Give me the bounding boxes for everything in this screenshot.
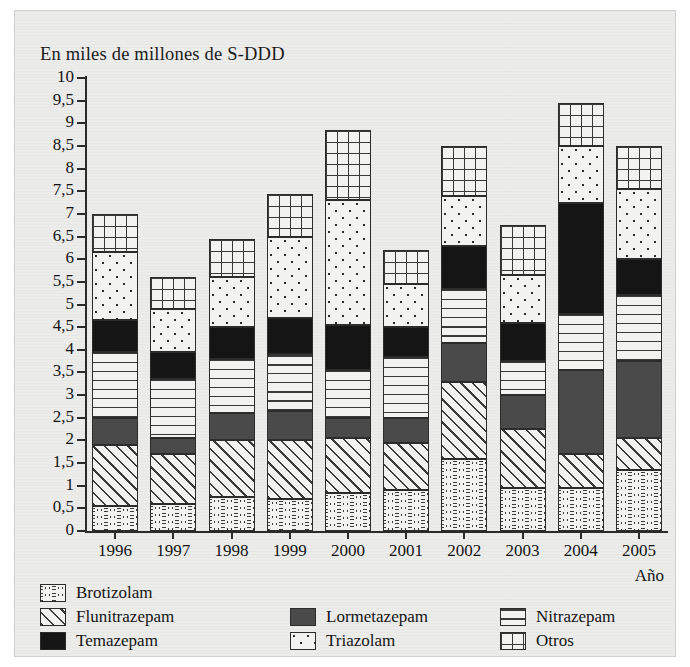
- bar-segment-otros-2001: [383, 250, 429, 284]
- bar-segment-nitrazepam-1998: [209, 359, 255, 413]
- y-axis-tick-label: 4,5: [30, 316, 74, 336]
- x-axis-tick: [289, 531, 291, 539]
- x-axis-label-1997: 1997: [144, 541, 202, 561]
- bar-2002: [441, 146, 487, 531]
- x-axis-tick: [231, 531, 233, 539]
- bar-segment-brotizolam-1996: [92, 506, 138, 531]
- bar-segment-otros-2003: [500, 225, 546, 275]
- plot-area: [86, 78, 668, 531]
- x-axis-tick: [522, 531, 524, 539]
- y-axis-tick-label: 1: [30, 475, 74, 495]
- legend-swatch-brotizolam-icon: [40, 584, 66, 602]
- y-axis-tick-label: 6,5: [30, 226, 74, 246]
- x-axis-label-1998: 1998: [203, 541, 261, 561]
- bar-segment-triazolam-1999: [267, 237, 313, 319]
- bar-segment-lormetazepam-1998: [209, 413, 255, 440]
- legend-label: Brotizolam: [76, 583, 152, 603]
- legend-label: Temazepam: [76, 631, 158, 651]
- bar-segment-lormetazepam-2002: [441, 343, 487, 382]
- bar-2005: [616, 146, 662, 531]
- y-axis-tick-label: 0: [30, 520, 74, 540]
- bar-segment-nitrazepam-2002: [441, 289, 487, 343]
- bar-segment-triazolam-2000: [325, 200, 371, 325]
- bar-segment-temazepam-1997: [150, 352, 196, 379]
- legend-label: Lormetazepam: [326, 607, 428, 627]
- bar-segment-flunitrazepam-1996: [92, 445, 138, 506]
- bar-segment-triazolam-2003: [500, 275, 546, 323]
- bar-segment-temazepam-1999: [267, 318, 313, 354]
- x-axis-tick: [405, 531, 407, 539]
- y-axis-tick-label: 2,5: [30, 407, 74, 427]
- legend-swatch-lormetazepam-icon: [290, 608, 316, 626]
- x-axis-label-2002: 2002: [435, 541, 493, 561]
- bar-segment-nitrazepam-1999: [267, 354, 313, 411]
- bar-segment-flunitrazepam-2005: [616, 438, 662, 470]
- chart-title: En miles de millones de S-DDD: [40, 44, 285, 65]
- x-axis-label-2001: 2001: [377, 541, 435, 561]
- bar-2004: [558, 103, 604, 531]
- bar-1996: [92, 214, 138, 531]
- bar-segment-flunitrazepam-1997: [150, 454, 196, 504]
- bar-segment-flunitrazepam-2003: [500, 429, 546, 488]
- legend-item-lormetazepam: Lormetazepam: [290, 606, 428, 628]
- bar-segment-nitrazepam-2001: [383, 357, 429, 418]
- legend-item-brotizolam: Brotizolam: [40, 582, 152, 604]
- y-axis-tick-label: 5,5: [30, 271, 74, 291]
- bar-segment-temazepam-2003: [500, 323, 546, 362]
- legend-swatch-otros-icon: [500, 632, 526, 650]
- x-axis-tick: [172, 531, 174, 539]
- bar-segment-otros-2002: [441, 146, 487, 196]
- legend-swatch-temazepam-icon: [40, 632, 66, 650]
- bar-segment-brotizolam-2002: [441, 459, 487, 531]
- bar-segment-triazolam-2002: [441, 196, 487, 246]
- legend-item-flunitrazepam: Flunitrazepam: [40, 606, 174, 628]
- y-axis-tick-label: 3,5: [30, 361, 74, 381]
- bar-segment-triazolam-1998: [209, 277, 255, 327]
- bar-segment-otros-1996: [92, 214, 138, 253]
- bar-segment-triazolam-1996: [92, 252, 138, 320]
- bar-segment-otros-1997: [150, 277, 196, 309]
- y-axis-tick-label: 8,5: [30, 135, 74, 155]
- bar-segment-lormetazepam-1997: [150, 438, 196, 454]
- bar-segment-lormetazepam-2005: [616, 361, 662, 438]
- bar-segment-triazolam-2004: [558, 146, 604, 203]
- bar-segment-lormetazepam-2003: [500, 395, 546, 429]
- y-axis-tick-label: 7: [30, 203, 74, 223]
- y-axis-tick-label: 6: [30, 248, 74, 268]
- x-axis-label-2004: 2004: [552, 541, 610, 561]
- bar-2000: [325, 130, 371, 531]
- y-axis-tick-label: 4: [30, 339, 74, 359]
- legend-swatch-nitrazepam-icon: [500, 608, 526, 626]
- bar-segment-lormetazepam-2004: [558, 370, 604, 454]
- legend-item-nitrazepam: Nitrazepam: [500, 606, 615, 628]
- bar-2003: [500, 225, 546, 531]
- y-axis-tick-label: 0,5: [30, 497, 74, 517]
- bar-segment-brotizolam-2005: [616, 470, 662, 531]
- x-axis-label-2003: 2003: [494, 541, 552, 561]
- y-axis-tick-label: 5: [30, 294, 74, 314]
- bar-segment-otros-2005: [616, 146, 662, 189]
- bar-segment-temazepam-2005: [616, 259, 662, 295]
- bar-segment-otros-1998: [209, 239, 255, 278]
- y-axis-tick-label: 10: [30, 67, 74, 87]
- legend-item-triazolam: Triazolam: [290, 630, 395, 652]
- legend-label: Nitrazepam: [536, 607, 615, 627]
- y-axis-tick-label: 3: [30, 384, 74, 404]
- bar-segment-brotizolam-2004: [558, 488, 604, 531]
- bar-segment-temazepam-2002: [441, 246, 487, 289]
- bar-segment-lormetazepam-1999: [267, 411, 313, 440]
- bar-1997: [150, 277, 196, 531]
- y-axis-tick-label: 1,5: [30, 452, 74, 472]
- bar-segment-brotizolam-2000: [325, 493, 371, 532]
- bar-segment-temazepam-2000: [325, 325, 371, 370]
- legend-label: Flunitrazepam: [76, 607, 174, 627]
- legend-item-otros: Otros: [500, 630, 574, 652]
- bar-segment-temazepam-1998: [209, 327, 255, 359]
- bar-segment-brotizolam-1999: [267, 499, 313, 531]
- y-axis-tick-label: 2: [30, 429, 74, 449]
- bar-segment-flunitrazepam-2004: [558, 454, 604, 488]
- bar-segment-lormetazepam-1996: [92, 418, 138, 445]
- bar-segment-otros-2000: [325, 130, 371, 200]
- bar-segment-triazolam-2001: [383, 284, 429, 327]
- bar-1998: [209, 239, 255, 531]
